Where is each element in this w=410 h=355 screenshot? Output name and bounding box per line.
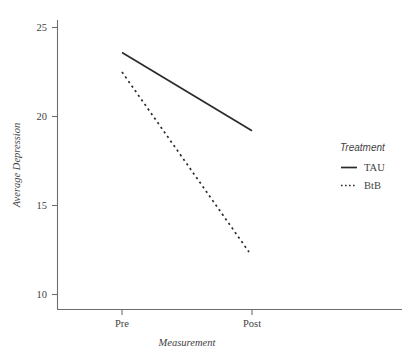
series-line-btb	[122, 72, 249, 252]
y-tick-label-20: 20	[37, 111, 48, 122]
legend-title: Treatment	[340, 142, 386, 153]
legend-label-btb: BtB	[364, 180, 381, 191]
x-axis-title: Measurement	[158, 337, 217, 348]
legend-item-btb[interactable]: BtB	[341, 180, 381, 191]
y-tick-label-15: 15	[37, 200, 48, 211]
chart-plot-area: 10 15 20 25 Pre Post Measurement Average…	[0, 0, 410, 355]
legend-item-tau[interactable]: TAU	[341, 162, 385, 173]
y-tick-label-10: 10	[37, 289, 48, 300]
legend-label-tau: TAU	[364, 162, 385, 173]
series-line-tau	[122, 52, 252, 130]
line-chart-svg: 10 15 20 25 Pre Post Measurement Average…	[0, 0, 410, 355]
x-tick-label-post: Post	[243, 318, 261, 329]
y-axis-title: Average Depression	[11, 123, 22, 208]
y-tick-label-25: 25	[37, 22, 48, 33]
x-tick-label-pre: Pre	[115, 318, 129, 329]
legend: Treatment TAU BtB	[340, 142, 386, 191]
